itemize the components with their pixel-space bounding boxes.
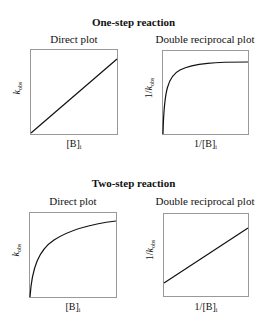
- ylabel-two-step-direct: kobs: [10, 225, 22, 275]
- ylabel-one-step-reciprocal: 1/kobs: [143, 63, 155, 113]
- plot-two-step-direct: [29, 212, 117, 298]
- data-curve: [30, 221, 116, 297]
- xlabel-two-step-reciprocal: 1/[B]i: [163, 301, 249, 313]
- plot-one-step-direct: [30, 49, 118, 135]
- section-title-two-step: Two-step reaction: [0, 177, 267, 189]
- plot-title-one-step-direct: Direct plot: [30, 33, 118, 45]
- ylabel-two-step-reciprocal: 1/kobs: [144, 225, 156, 275]
- data-curve: [163, 62, 248, 134]
- xlabel-two-step-direct: [B]i: [29, 301, 117, 313]
- data-line: [164, 228, 248, 283]
- xlabel-one-step-reciprocal: 1/[B]i: [162, 138, 249, 150]
- plot-title-two-step-direct: Direct plot: [29, 195, 117, 207]
- plot-one-step-reciprocal: [162, 50, 249, 135]
- section-title-one-step: One-step reaction: [0, 16, 267, 28]
- plot-frame: [30, 213, 117, 298]
- plot-two-step-reciprocal: [163, 213, 249, 297]
- plot-title-one-step-reciprocal: Double reciprocal plot: [150, 33, 260, 45]
- plot-title-two-step-reciprocal: Double reciprocal plot: [150, 195, 260, 207]
- ylabel-one-step-direct: kobs: [11, 63, 23, 113]
- xlabel-one-step-direct: [B]i: [30, 138, 118, 150]
- data-line: [31, 59, 117, 133]
